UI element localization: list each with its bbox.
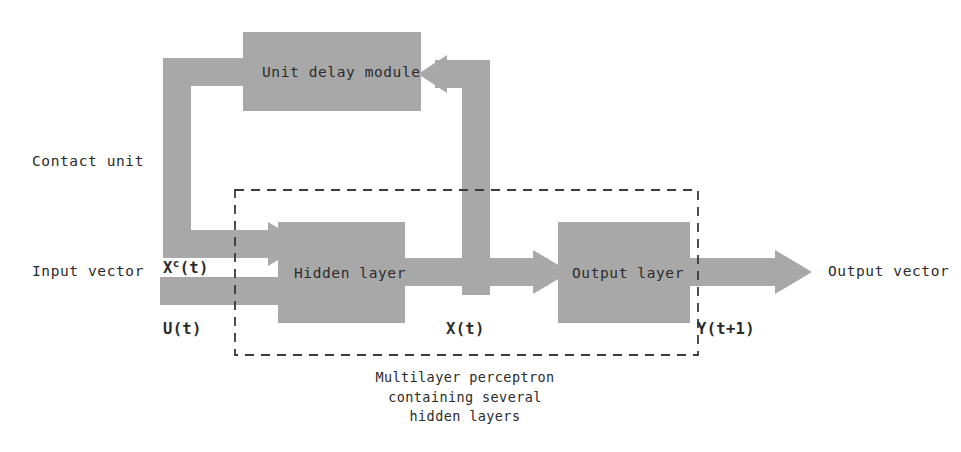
input-vector-label: Input vector xyxy=(32,262,144,280)
diagram-canvas: Unit delay module Hidden layer Output la… xyxy=(0,0,961,452)
perceptron-caption: Multilayer perceptron containing several… xyxy=(355,368,575,427)
delay-module-label: Unit delay module xyxy=(262,63,421,81)
output-y-signal-label: Y(t+1) xyxy=(697,320,755,339)
hidden-layer-label: Hidden layer xyxy=(294,264,406,282)
input-u-signal-label: U(t) xyxy=(163,320,202,339)
perceptron-caption-line-2: containing several xyxy=(355,388,575,408)
perceptron-caption-line-3: hidden layers xyxy=(355,407,575,427)
context-state-time: (t) xyxy=(180,259,209,277)
output-vector-arrow xyxy=(688,250,812,294)
context-state-signal-label: Xc(t) xyxy=(163,259,209,278)
output-vector-label: Output vector xyxy=(828,262,949,280)
context-state-base: X xyxy=(163,259,173,277)
hidden-state-signal-label: X(t) xyxy=(446,320,485,339)
perceptron-caption-line-1: Multilayer perceptron xyxy=(355,368,575,388)
contact-unit-label: Contact unit xyxy=(32,152,144,170)
output-layer-label: Output layer xyxy=(572,264,684,282)
context-state-superscript: c xyxy=(173,257,180,270)
